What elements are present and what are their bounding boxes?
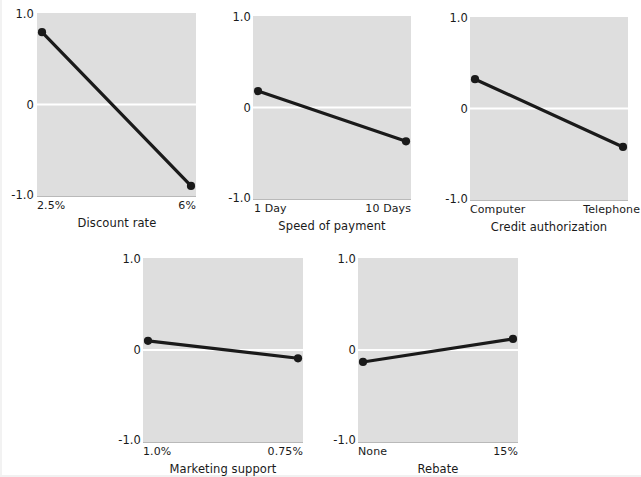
plot-area-discount-rate	[37, 13, 196, 196]
plot-area-speed-of-payment	[253, 16, 411, 199]
ytick-mid-label: 0	[115, 343, 141, 357]
ytick-mid-label: 0	[330, 343, 356, 357]
xtick-right-label: 0.75%	[233, 445, 303, 458]
xtick-right-label: 10 Days	[341, 202, 411, 215]
plot-area-marketing-support	[143, 258, 303, 442]
main-effects-figure: 1.0 0 -1.0 2.5% 6% Discount rate 1.0 0 -…	[0, 0, 641, 477]
xtick-right-label: 6%	[126, 199, 196, 212]
axis-baseline	[253, 199, 411, 200]
series-line-credit-authorization	[470, 17, 628, 200]
ytick-top-label: 1.0	[442, 11, 468, 25]
axis-title-speed-of-payment: Speed of payment	[247, 219, 417, 233]
ytick-bottom-label: -1.0	[110, 433, 141, 447]
axis-title-discount-rate: Discount rate	[32, 216, 202, 230]
series-line-rebate	[358, 258, 518, 442]
ytick-bottom-label: -1.0	[437, 192, 468, 206]
effect-line	[42, 32, 191, 186]
xtick-right-label: 15%	[451, 445, 518, 458]
panel-rebate: 1.0 0 -1.0 None 15% Rebate	[321, 242, 531, 477]
xtick-left-label: 1 Day	[254, 202, 324, 215]
xtick-left-label: 2.5%	[37, 199, 107, 212]
axis-baseline	[143, 442, 303, 443]
data-point-marker	[294, 354, 302, 362]
data-point-marker	[509, 335, 517, 343]
data-point-marker	[187, 182, 195, 190]
panel-discount-rate: 1.0 0 -1.0 2.5% 6% Discount rate	[0, 0, 225, 232]
panel-credit-authorization: 1.0 0 -1.0 Computer Telephone Credit aut…	[433, 0, 641, 236]
panel-marketing-support: 1.0 0 -1.0 1.0% 0.75% Marketing support	[106, 242, 316, 477]
data-point-marker	[254, 87, 262, 95]
data-point-marker	[471, 75, 479, 83]
plot-area-rebate	[358, 258, 518, 442]
ytick-top-label: 1.0	[330, 252, 356, 266]
axis-baseline	[470, 200, 628, 201]
xtick-left-label: 1.0%	[143, 445, 213, 458]
ytick-top-label: 1.0	[115, 252, 141, 266]
series-line-discount-rate	[37, 13, 196, 196]
ytick-bottom-label: -1.0	[325, 433, 356, 447]
data-point-marker	[144, 337, 152, 345]
axis-title-credit-authorization: Credit authorization	[464, 220, 634, 234]
data-point-marker	[402, 137, 410, 145]
ytick-mid-label: 0	[442, 102, 468, 116]
data-point-marker	[38, 28, 46, 36]
series-line-speed-of-payment	[253, 16, 411, 199]
data-point-marker	[359, 358, 367, 366]
xtick-left-label: Computer	[470, 203, 550, 216]
plot-area-credit-authorization	[470, 17, 628, 200]
ytick-bottom-label: -1.0	[3, 188, 34, 202]
data-point-marker	[619, 143, 627, 151]
effect-line	[258, 91, 406, 141]
effect-line	[475, 79, 623, 147]
ytick-top-label: 1.0	[8, 7, 34, 21]
ytick-mid-label: 0	[225, 101, 251, 115]
series-line-marketing-support	[143, 258, 303, 442]
ytick-mid-label: 0	[8, 98, 34, 112]
panel-speed-of-payment: 1.0 0 -1.0 1 Day 10 Days Speed of paymen…	[216, 0, 426, 235]
axis-baseline	[37, 196, 196, 197]
xtick-left-label: None	[358, 445, 428, 458]
axis-title-rebate: Rebate	[353, 462, 523, 476]
xtick-right-label: Telephone	[558, 203, 640, 216]
ytick-bottom-label: -1.0	[220, 191, 251, 205]
axis-title-marketing-support: Marketing support	[138, 462, 308, 476]
axis-baseline	[358, 442, 518, 443]
ytick-top-label: 1.0	[225, 10, 251, 24]
